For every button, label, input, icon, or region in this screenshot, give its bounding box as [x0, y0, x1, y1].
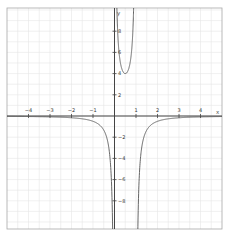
- x-tick-label: −3: [46, 107, 53, 113]
- y-tick-label: −4: [118, 155, 125, 161]
- x-tick-label: 4: [199, 107, 202, 113]
- y-tick-label: −2: [118, 134, 125, 140]
- x-tick-label: −1: [89, 107, 96, 113]
- x-tick-label: −2: [68, 107, 75, 113]
- y-tick-label: 4: [118, 70, 121, 76]
- y-tick-label: 8: [118, 28, 121, 34]
- y-tick-label: 2: [118, 92, 121, 98]
- x-tick-label: 1: [134, 107, 137, 113]
- y-tick-label: −6: [118, 176, 125, 182]
- y-tick-label: −8: [118, 198, 125, 204]
- x-tick-label: −4: [25, 107, 32, 113]
- x-tick-label: 2: [156, 107, 159, 113]
- x-tick-label: 3: [177, 107, 180, 113]
- function-plot: −4−3−2−112348642−2−4−6−8 x y: [0, 0, 226, 237]
